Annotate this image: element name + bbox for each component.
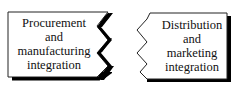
- left-label-line-4: integration: [12, 58, 96, 72]
- left-box-label: Procurement and manufacturing integratio…: [12, 16, 96, 72]
- right-label-line-3: marketing: [156, 46, 228, 60]
- right-label-line-2: and: [156, 32, 228, 46]
- right-label-line-4: integration: [156, 60, 228, 74]
- integration-diagram: Procurement and manufacturing integratio…: [0, 0, 242, 96]
- left-label-line-1: Procurement: [12, 16, 96, 30]
- right-box-label: Distribution and marketing integration: [156, 18, 228, 74]
- right-label-line-1: Distribution: [156, 18, 228, 32]
- left-label-line-3: manufacturing: [12, 44, 96, 58]
- left-label-line-2: and: [12, 30, 96, 44]
